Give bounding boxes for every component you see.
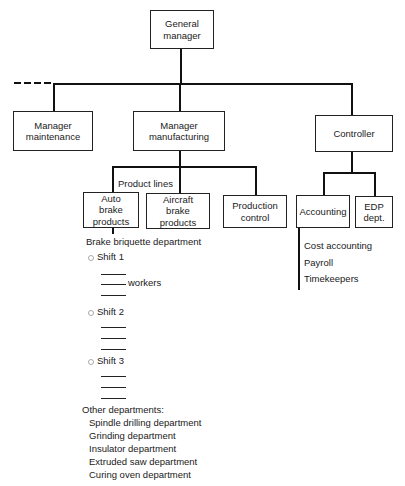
label-manager-manufacturing: Manager manufacturing (144, 120, 214, 143)
accounting-item-timekeepers: Timekeepers (304, 273, 359, 284)
worker-blank (101, 284, 126, 285)
worker-blank (101, 387, 126, 388)
connector-edp (374, 172, 376, 196)
other-department-item: Curing oven department (89, 469, 191, 480)
label-shift-2: Shift 2 (97, 306, 124, 317)
connector-dashed-extension (14, 82, 54, 84)
connector-controller (351, 83, 353, 115)
box-aircraft-brake-products: Aircraft brake products (146, 193, 210, 229)
other-department-item: Grinding department (89, 430, 176, 441)
connector-accounting-down (298, 226, 300, 290)
label-workers: workers (128, 277, 161, 288)
worker-blank (101, 398, 126, 399)
box-general-manager: General manager (150, 10, 214, 49)
label-manager-maintenance: Manager maintenance (23, 120, 83, 143)
connector-maintenance (53, 83, 55, 111)
box-manager-manufacturing: Manager manufacturing (133, 111, 225, 151)
accounting-item-cost-accounting: Cost accounting (304, 240, 372, 251)
other-department-item: Extruded saw department (89, 456, 197, 467)
worker-blank (101, 274, 126, 275)
box-accounting: Accounting (296, 195, 350, 228)
worker-blank (101, 295, 126, 296)
label-accounting: Accounting (299, 206, 346, 218)
label-auto-brake-products: Auto brake products (89, 193, 133, 228)
bullet-icon (88, 310, 94, 316)
connector-product-bar (112, 166, 256, 168)
box-controller: Controller (315, 115, 393, 152)
worker-blank (101, 327, 126, 328)
bullet-icon (88, 255, 94, 261)
connector-controller-bar (323, 172, 375, 174)
box-auto-brake-products: Auto brake products (83, 192, 139, 228)
connector-aircraft-stub (179, 166, 181, 196)
worker-blank (101, 338, 126, 339)
worker-blank (101, 349, 126, 350)
label-general-manager: General manager (151, 18, 213, 41)
label-product-lines: Product lines (118, 178, 173, 189)
label-brake-briquette-department: Brake briquette department (86, 236, 201, 247)
worker-blank (101, 376, 126, 377)
connector-gm-down (180, 48, 182, 84)
bullet-icon (88, 359, 94, 365)
connector-level2-bar (53, 83, 352, 85)
connector-production (255, 166, 257, 196)
box-edp-dept: EDP dept. (355, 196, 393, 228)
connector-controller-down (351, 151, 353, 173)
label-production-control: Production control (229, 200, 281, 223)
connector-manufacturing (179, 83, 181, 111)
label-controller: Controller (333, 128, 374, 140)
box-manager-maintenance: Manager maintenance (13, 111, 93, 151)
other-department-item: Spindle drilling department (89, 417, 201, 428)
label-shift-3: Shift 3 (97, 355, 124, 366)
accounting-item-payroll: Payroll (304, 257, 333, 268)
other-department-item: Insulator department (89, 443, 176, 454)
label-other-departments: Other departments: (82, 404, 164, 415)
label-shift-1: Shift 1 (97, 251, 124, 262)
connector-accounting (323, 172, 325, 196)
label-edp-dept: EDP dept. (361, 201, 387, 224)
label-aircraft-brake-products: Aircraft brake products (156, 194, 200, 229)
box-production-control: Production control (223, 195, 287, 228)
